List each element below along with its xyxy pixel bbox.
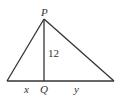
side-left [7,19,44,81]
segment-label-x: x [23,83,29,95]
altitude-label: 12 [48,47,59,59]
segment-label-y: y [73,83,79,95]
vertex-label-p: P [40,6,48,18]
triangle-diagram: P 12 x Q y [0,0,119,99]
vertex-label-q: Q [40,83,48,95]
